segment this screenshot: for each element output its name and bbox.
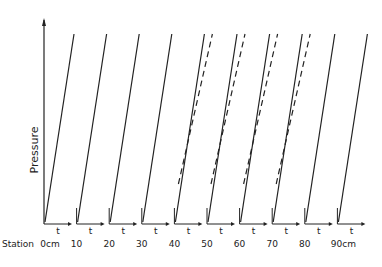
station-label: 90cm: [331, 239, 356, 249]
pressure-axis-arrow-icon: [42, 18, 46, 26]
time-axis-arrow-icon: [296, 222, 300, 226]
pressure-curve-solid: [338, 34, 367, 222]
station-label: 40: [169, 239, 181, 249]
station-plot: t90cm: [331, 34, 368, 249]
station-label: 20: [103, 239, 115, 249]
station-label: 60: [234, 239, 246, 249]
pressure-curve-dashed: [244, 34, 278, 184]
pressure-curve-dashed: [276, 34, 310, 184]
time-label: t: [154, 226, 158, 236]
time-axis-arrow-icon: [329, 222, 333, 226]
station-label: 10: [71, 239, 83, 249]
time-axis-arrow-icon: [68, 222, 72, 226]
time-axis-arrow-icon: [361, 222, 365, 226]
time-label: t: [219, 226, 223, 236]
time-label: t: [317, 226, 321, 236]
pressure-curve-solid: [306, 34, 335, 222]
station-label: 30: [136, 239, 148, 249]
time-axis-arrow-icon: [198, 222, 202, 226]
station-label: 80: [299, 239, 311, 249]
pressure-curve-solid: [241, 34, 270, 222]
station-plots: t0cmt10t20t30t40t50t60t70t80t90cm: [40, 18, 367, 249]
station-plot: t80: [299, 34, 335, 249]
station-plot: t40: [169, 34, 213, 249]
time-axis-arrow-icon: [166, 222, 170, 226]
pressure-curve-dashed: [178, 34, 212, 184]
pressure-curve-dashed: [211, 34, 245, 184]
station-plot: t20: [103, 34, 139, 249]
station-label: 70: [266, 239, 278, 249]
station-word-label: Station: [2, 239, 34, 249]
station-plot: t30: [136, 34, 172, 249]
station-label: 50: [201, 239, 213, 249]
time-label: t: [89, 226, 93, 236]
time-axis-arrow-icon: [133, 222, 137, 226]
station-plot: t50: [201, 34, 245, 249]
pressure-curve-solid: [273, 34, 302, 222]
pressure-curve-solid: [78, 34, 107, 222]
time-axis-arrow-icon: [101, 222, 105, 226]
station-label: 0cm: [40, 239, 59, 249]
pressure-station-chart: t0cmt10t20t30t40t50t60t70t80t90cm Pressu…: [0, 0, 382, 267]
station-plot: t70: [266, 34, 310, 249]
time-label: t: [56, 226, 60, 236]
pressure-curve-solid: [175, 34, 204, 222]
station-plot: t0cm: [40, 34, 74, 249]
time-label: t: [284, 226, 288, 236]
pressure-curve-solid: [110, 34, 139, 222]
time-label: t: [350, 226, 354, 236]
y-axis-label: Pressure: [28, 126, 41, 173]
pressure-curve-solid: [208, 34, 237, 222]
time-axis-arrow-icon: [264, 222, 268, 226]
pressure-curve-solid: [45, 34, 74, 222]
pressure-curve-solid: [143, 34, 172, 222]
time-label: t: [121, 226, 125, 236]
time-axis-arrow-icon: [231, 222, 235, 226]
time-label: t: [252, 226, 256, 236]
time-label: t: [187, 226, 191, 236]
station-plot: t10: [71, 34, 107, 249]
station-plot: t60: [234, 34, 278, 249]
